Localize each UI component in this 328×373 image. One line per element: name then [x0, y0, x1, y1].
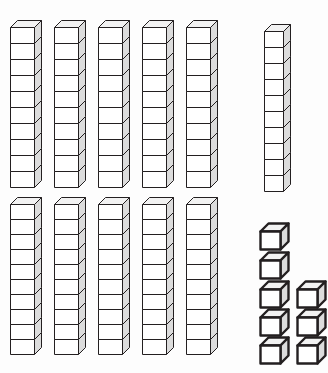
- cube-front-face: [143, 340, 167, 355]
- cube-front-face: [55, 295, 79, 310]
- cube-front-face: [143, 140, 167, 156]
- cube-front-face: [11, 108, 35, 124]
- cube-front-face: [143, 235, 167, 250]
- unit-cube: [259, 251, 291, 281]
- ten-rod-graphic: [97, 19, 132, 190]
- ten-rod-graphic: [53, 196, 88, 357]
- cube-front-face: [55, 140, 79, 156]
- cube-front-face: [187, 140, 211, 156]
- cube-front-face: [11, 340, 35, 355]
- cube-front-face: [55, 340, 79, 355]
- cube-front-face: [265, 64, 284, 80]
- cube-front-face: [143, 205, 167, 220]
- ten-rod-graphic: [97, 196, 132, 357]
- unit-cube-cell: [143, 21, 174, 44]
- unit-cube: [259, 336, 291, 366]
- cube-front-face: [265, 176, 284, 192]
- ten-rod: [53, 19, 88, 190]
- cube-front-face: [143, 280, 167, 295]
- ten-rod: [9, 196, 44, 357]
- cube-front-face: [99, 28, 123, 44]
- cube-front-face: [99, 325, 123, 340]
- unit-cube-cell: [99, 198, 130, 220]
- cube-front-face: [265, 96, 284, 112]
- cube-front-face: [261, 232, 281, 250]
- cube-front-face: [187, 340, 211, 355]
- unit-cube: [259, 222, 291, 252]
- cube-front-face: [187, 235, 211, 250]
- unit-cube-graphic: [259, 222, 291, 252]
- cube-front-face: [11, 172, 35, 188]
- unit-cube-cell: [261, 282, 289, 308]
- cube-front-face: [143, 76, 167, 92]
- unit-cube-cell: [265, 25, 291, 48]
- cube-front-face: [99, 172, 123, 188]
- unit-cube: [296, 336, 328, 366]
- cube-front-face: [261, 318, 281, 336]
- cube-front-face: [99, 156, 123, 172]
- cube-front-face: [187, 280, 211, 295]
- cube-front-face: [265, 80, 284, 96]
- ten-rod: [263, 23, 293, 194]
- ten-rod-graphic: [53, 19, 88, 190]
- unit-cube-cell: [261, 224, 289, 250]
- unit-cube-graphic: [259, 280, 291, 310]
- cube-front-face: [11, 235, 35, 250]
- ten-rod: [97, 19, 132, 190]
- cube-front-face: [11, 124, 35, 140]
- unit-cube-cell: [11, 21, 42, 44]
- cube-front-face: [99, 295, 123, 310]
- unit-cube-cell: [55, 198, 86, 220]
- cube-front-face: [55, 76, 79, 92]
- ten-rod-graphic: [141, 19, 176, 190]
- cube-front-face: [265, 160, 284, 176]
- unit-cube-cell: [11, 198, 42, 220]
- cube-front-face: [265, 48, 284, 64]
- cube-front-face: [55, 124, 79, 140]
- unit-cube-cell: [187, 198, 218, 220]
- ten-rod-graphic: [185, 196, 220, 357]
- cube-front-face: [99, 108, 123, 124]
- unit-cube-cell: [187, 21, 218, 44]
- cube-front-face: [261, 261, 281, 279]
- cube-front-face: [11, 250, 35, 265]
- unit-cube-cell: [99, 21, 130, 44]
- cube-front-face: [298, 318, 318, 336]
- cube-front-face: [55, 220, 79, 235]
- cube-front-face: [187, 76, 211, 92]
- cube-front-face: [99, 92, 123, 108]
- cube-front-face: [187, 172, 211, 188]
- ten-rod: [141, 19, 176, 190]
- cube-front-face: [11, 44, 35, 60]
- cube-front-face: [143, 124, 167, 140]
- cube-front-face: [11, 280, 35, 295]
- cube-front-face: [99, 310, 123, 325]
- cube-front-face: [55, 28, 79, 44]
- cube-front-face: [143, 156, 167, 172]
- cube-front-face: [11, 28, 35, 44]
- cube-front-face: [143, 295, 167, 310]
- cube-front-face: [298, 290, 318, 308]
- cube-front-face: [143, 310, 167, 325]
- cube-front-face: [187, 295, 211, 310]
- unit-cube-cell: [261, 310, 289, 336]
- cube-front-face: [55, 235, 79, 250]
- cube-front-face: [143, 172, 167, 188]
- unit-cube-cell: [298, 310, 326, 336]
- cube-front-face: [187, 250, 211, 265]
- ten-rod: [53, 196, 88, 357]
- ten-rod-graphic: [263, 23, 293, 194]
- cube-front-face: [187, 325, 211, 340]
- cube-front-face: [11, 92, 35, 108]
- unit-cube-graphic: [259, 308, 291, 338]
- cube-front-face: [99, 235, 123, 250]
- cube-front-face: [11, 76, 35, 92]
- unit-cube-cell: [261, 253, 289, 279]
- cube-front-face: [55, 156, 79, 172]
- cube-front-face: [55, 205, 79, 220]
- cube-front-face: [99, 250, 123, 265]
- cube-front-face: [99, 220, 123, 235]
- base-ten-blocks-diagram: [0, 0, 328, 373]
- ten-rod: [97, 196, 132, 357]
- unit-cube-cell: [298, 282, 326, 308]
